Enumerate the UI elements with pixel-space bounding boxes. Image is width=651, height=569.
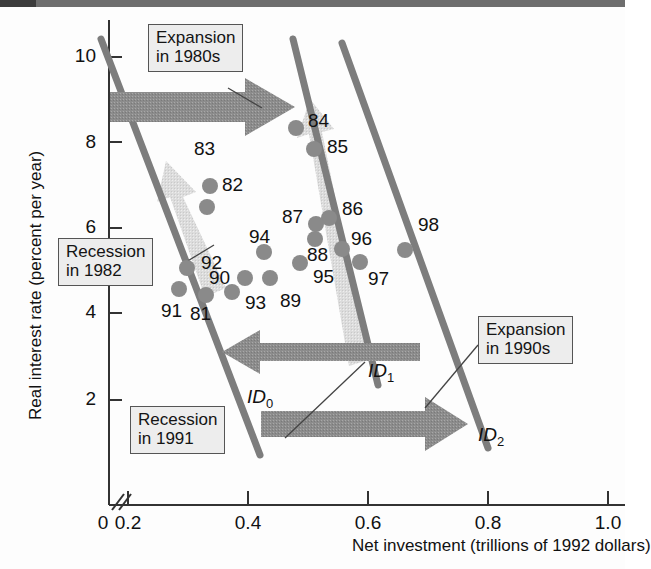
point-label-96: 96 xyxy=(351,228,372,250)
data-point-91 xyxy=(171,281,187,297)
point-label-89: 89 xyxy=(280,290,301,312)
data-point-89 xyxy=(262,270,278,286)
point-label-92: 92 xyxy=(201,252,222,274)
callout-expansion-1980s: Expansion in 1980s xyxy=(148,24,243,72)
data-point-92 xyxy=(179,260,195,276)
data-point-95 xyxy=(292,255,308,271)
curve-ID1 xyxy=(293,39,378,385)
data-point-97 xyxy=(352,254,368,270)
y-tick-label-6: 6 xyxy=(62,216,96,238)
point-label-86: 86 xyxy=(342,198,363,220)
point-label-87: 87 xyxy=(282,206,303,228)
y-tick-label-8: 8 xyxy=(62,131,96,153)
point-label-83: 83 xyxy=(194,138,215,160)
point-label-84: 84 xyxy=(308,110,329,132)
y-tick-label-4: 4 xyxy=(62,301,96,323)
x-axis-title: Net investment (trillions of 1992 dollar… xyxy=(352,536,651,556)
callout-expansion-1990s: Expansion in 1990s xyxy=(478,316,573,364)
x-tick-label-0.2: 0.2 xyxy=(103,512,153,534)
data-point-83 xyxy=(199,199,215,215)
data-point-85 xyxy=(306,141,322,157)
callout-recession-1982: Recession in 1982 xyxy=(58,238,153,286)
data-point-96 xyxy=(334,241,350,257)
x-tick-label-0.8: 0.8 xyxy=(463,512,513,534)
point-label-81: 81 xyxy=(190,303,211,325)
y-axis-title: Real interest rate (percent per year) xyxy=(26,151,46,420)
curve-label-ID0: ID0 xyxy=(247,386,273,411)
data-point-81 xyxy=(198,287,214,303)
callout-recession-1991: Recession in 1991 xyxy=(130,406,225,454)
point-label-85: 85 xyxy=(327,136,348,158)
data-point-98 xyxy=(397,242,413,258)
data-point-82 xyxy=(202,178,218,194)
point-label-82: 82 xyxy=(222,174,243,196)
point-label-88: 88 xyxy=(307,244,328,266)
point-label-98: 98 xyxy=(418,214,439,236)
data-point-90 xyxy=(237,270,253,286)
axis-break-mark xyxy=(112,494,131,510)
expansion-1990s-arrow xyxy=(261,397,468,451)
x-tick-label-0.4: 0.4 xyxy=(223,512,273,534)
x-tick-label-0.6: 0.6 xyxy=(343,512,393,534)
x-axis xyxy=(109,491,625,505)
point-label-91: 91 xyxy=(161,300,182,322)
point-label-95: 95 xyxy=(313,266,334,288)
point-label-93: 93 xyxy=(245,292,266,314)
data-point-84 xyxy=(288,120,304,136)
x-tick-label-1.0: 1.0 xyxy=(583,512,633,534)
curve-label-ID2: ID2 xyxy=(478,424,504,449)
point-label-94: 94 xyxy=(249,226,270,248)
y-tick-label-10: 10 xyxy=(62,45,96,67)
y-tick-label-2: 2 xyxy=(62,388,96,410)
curve-label-ID1: ID1 xyxy=(368,360,394,385)
point-label-97: 97 xyxy=(368,268,389,290)
data-point-87 xyxy=(308,216,324,232)
